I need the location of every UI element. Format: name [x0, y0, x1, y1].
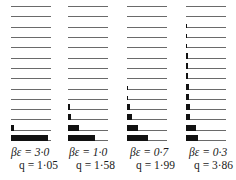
occupation-bar: [127, 125, 138, 131]
occupation-bar: [186, 34, 187, 38]
level-9: [68, 49, 108, 59]
level-line: [127, 27, 167, 28]
level-3: [127, 110, 167, 120]
level-line: [68, 58, 108, 59]
level-line: [186, 78, 226, 79]
level-5: [68, 90, 108, 100]
level-line: [127, 58, 167, 59]
level-4: [127, 100, 167, 110]
level-5: [186, 90, 226, 100]
level-8: [127, 59, 167, 69]
occupation-bar: [11, 125, 14, 131]
level-line: [11, 6, 51, 7]
level-2: [127, 121, 167, 131]
level-line: [11, 58, 51, 59]
level-line: [68, 47, 108, 48]
level-7: [186, 69, 226, 79]
level-line: [68, 68, 108, 69]
occupation-bar: [186, 104, 190, 110]
level-2: [186, 121, 226, 131]
level-4: [186, 100, 226, 110]
level-1: [186, 131, 226, 141]
level-9: [127, 49, 167, 59]
level-8: [68, 59, 108, 69]
level-14: [68, 0, 108, 7]
level-line: [186, 109, 226, 110]
panel-1-beta-label: βε = 3·0: [11, 146, 49, 158]
level-line: [127, 16, 167, 17]
level-14: [127, 0, 167, 7]
level-line: [186, 99, 226, 100]
level-line: [127, 78, 167, 79]
level-11: [127, 28, 167, 38]
level-line: [68, 109, 108, 110]
level-line: [11, 37, 51, 38]
level-4: [11, 100, 51, 110]
level-13: [186, 7, 226, 17]
level-line: [186, 119, 226, 120]
occupation-bar: [127, 114, 132, 120]
level-6: [68, 80, 108, 90]
occupation-bar: [186, 73, 188, 79]
occupation-bar: [11, 135, 48, 141]
level-line: [186, 68, 226, 69]
level-14: [186, 0, 226, 7]
level-line: [68, 119, 108, 120]
level-line: [11, 27, 51, 28]
level-line: [11, 130, 51, 131]
level-12: [127, 18, 167, 28]
level-line: [11, 78, 51, 79]
panel-1-q-label: q = 1·05: [19, 159, 58, 171]
level-line: [186, 16, 226, 17]
occupation-bar: [127, 104, 130, 110]
level-line: [127, 109, 167, 110]
occupation-bar: [127, 86, 128, 90]
level-12: [186, 18, 226, 28]
level-line: [11, 99, 51, 100]
panel-4-beta-label: βε = 0·3: [189, 146, 227, 158]
occupation-bar: [186, 63, 188, 69]
panel-2-q-label: q = 1·58: [76, 159, 115, 171]
occupation-bar: [186, 53, 188, 59]
level-line: [127, 89, 167, 90]
level-3: [68, 110, 108, 120]
occupation-bar: [186, 84, 189, 90]
occupation-bar: [68, 135, 95, 141]
occupation-bar: [186, 125, 196, 131]
level-10: [68, 38, 108, 48]
level-line: [68, 27, 108, 28]
level-3: [186, 110, 226, 120]
level-10: [11, 38, 51, 48]
level-13: [11, 7, 51, 17]
level-line: [127, 47, 167, 48]
level-14: [11, 0, 51, 7]
occupation-bar: [186, 114, 190, 120]
level-1: [11, 131, 51, 141]
level-line: [11, 89, 51, 90]
level-line: [127, 37, 167, 38]
level-10: [186, 38, 226, 48]
level-11: [186, 28, 226, 38]
level-7: [11, 69, 51, 79]
level-8: [11, 59, 51, 69]
occupation-bar: [68, 114, 71, 120]
level-2: [68, 121, 108, 131]
level-line: [11, 119, 51, 120]
occupation-bar: [186, 135, 198, 141]
level-line: [186, 47, 226, 48]
level-line: [68, 6, 108, 7]
level-line: [127, 68, 167, 69]
level-12: [68, 18, 108, 28]
level-6: [186, 80, 226, 90]
level-line: [11, 47, 51, 48]
level-1: [127, 131, 167, 141]
level-line: [68, 99, 108, 100]
level-line: [68, 78, 108, 79]
level-9: [186, 49, 226, 59]
occupation-bar: [186, 44, 187, 48]
occupation-bar: [186, 24, 187, 28]
level-3: [11, 110, 51, 120]
level-line: [68, 16, 108, 17]
level-9: [11, 49, 51, 59]
level-13: [68, 7, 108, 17]
